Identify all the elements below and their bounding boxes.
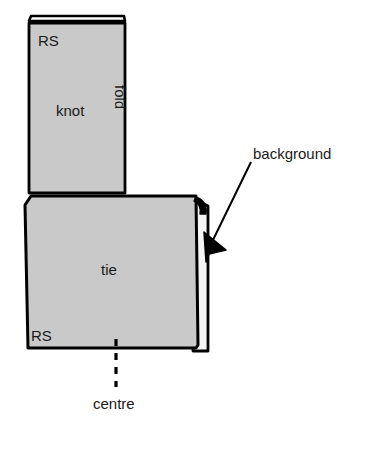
- label-knot: knot: [56, 103, 84, 118]
- label-rs-bottom: RS: [31, 328, 52, 343]
- diagram-canvas: RS knot fold tie RS centre background: [0, 0, 375, 450]
- background-leader-line: [212, 162, 251, 242]
- tie-knot-diagram: [0, 0, 375, 450]
- knot-top-fold-strip: [29, 16, 125, 21]
- label-rs-top: RS: [38, 33, 59, 48]
- label-background: background: [253, 146, 331, 161]
- label-centre: centre: [93, 396, 135, 411]
- label-fold: fold: [113, 85, 128, 109]
- label-tie: tie: [101, 262, 117, 277]
